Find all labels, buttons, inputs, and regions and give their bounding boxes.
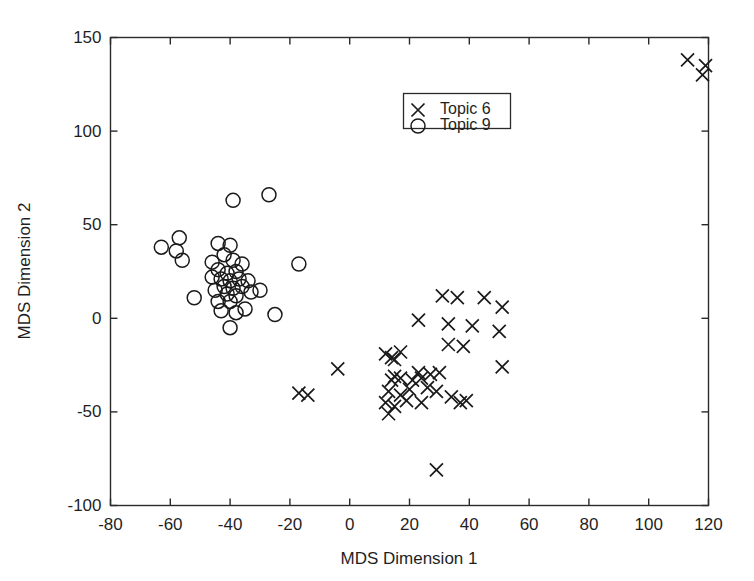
data-point-cross <box>433 366 446 379</box>
x-tick-label: -60 <box>158 515 183 534</box>
x-axis-title: MDS Dimension 1 <box>341 549 478 568</box>
x-tick-label: 60 <box>520 515 539 534</box>
data-point-cross <box>331 362 344 375</box>
x-tick-label: 0 <box>345 515 354 534</box>
y-axis-title: MDS Dimension 2 <box>15 203 34 340</box>
y-tick-label: -50 <box>77 402 102 421</box>
data-point-cross <box>496 301 509 314</box>
data-point-cross <box>400 394 413 407</box>
data-point-cross <box>466 319 479 332</box>
x-tick-label: 40 <box>460 515 479 534</box>
x-tick-label: -20 <box>278 515 303 534</box>
data-point-cross <box>451 291 464 304</box>
legend-label-topic-6: Topic 6 <box>440 100 491 117</box>
x-tick-label: -80 <box>98 515 123 534</box>
data-point-cross <box>412 314 425 327</box>
data-point-cross <box>385 374 398 387</box>
data-point-cross <box>382 407 395 420</box>
data-point-circle <box>187 291 201 305</box>
data-point-cross <box>301 389 314 402</box>
data-point-cross <box>696 68 709 81</box>
x-axis-tick-labels: -80-60-40-20020406080100120 <box>98 515 722 534</box>
y-tick-label: -100 <box>67 496 101 515</box>
data-point-cross <box>699 59 712 72</box>
plot-canvas: -80-60-40-20020406080100120 -100-5005010… <box>0 0 754 581</box>
y-tick-label: 0 <box>92 309 101 328</box>
y-tick-label: 150 <box>73 28 101 47</box>
data-point-cross <box>681 53 694 66</box>
data-point-circle <box>253 283 267 297</box>
y-axis-tick-labels: -100-50050100150 <box>67 28 101 515</box>
data-point-cross <box>478 291 491 304</box>
data-point-cross <box>406 374 419 387</box>
data-point-cross <box>496 360 509 373</box>
x-tick-label: 100 <box>635 515 663 534</box>
series-topic-9 <box>154 188 306 335</box>
mds-scatter-figure: -80-60-40-20020406080100120 -100-5005010… <box>0 0 754 581</box>
data-point-circle <box>223 321 237 335</box>
y-tick-label: 50 <box>83 215 102 234</box>
data-point-circle <box>214 304 228 318</box>
x-tick-label: 80 <box>579 515 598 534</box>
x-tick-label: -40 <box>218 515 243 534</box>
data-point-circle <box>262 188 276 202</box>
data-point-cross <box>292 387 305 400</box>
data-point-cross <box>493 325 506 338</box>
legend-label-topic-9: Topic 9 <box>440 116 491 133</box>
data-point-circle <box>268 308 282 322</box>
data-point-cross <box>442 317 455 330</box>
data-point-circle <box>226 193 240 207</box>
data-point-cross <box>382 385 395 398</box>
legend: Topic 6 Topic 9 <box>404 94 511 134</box>
y-tick-label: 100 <box>73 122 101 141</box>
data-point-circle <box>229 306 243 320</box>
x-tick-label: 120 <box>694 515 722 534</box>
data-point-circle <box>172 231 186 245</box>
data-point-cross <box>442 338 455 351</box>
data-point-cross <box>430 463 443 476</box>
x-tick-label: 20 <box>400 515 419 534</box>
data-point-cross <box>415 396 428 409</box>
data-point-cross <box>457 340 470 353</box>
data-point-circle <box>292 257 306 271</box>
data-point-circle <box>154 240 168 254</box>
data-point-circle <box>238 302 252 316</box>
data-point-cross <box>436 289 449 302</box>
